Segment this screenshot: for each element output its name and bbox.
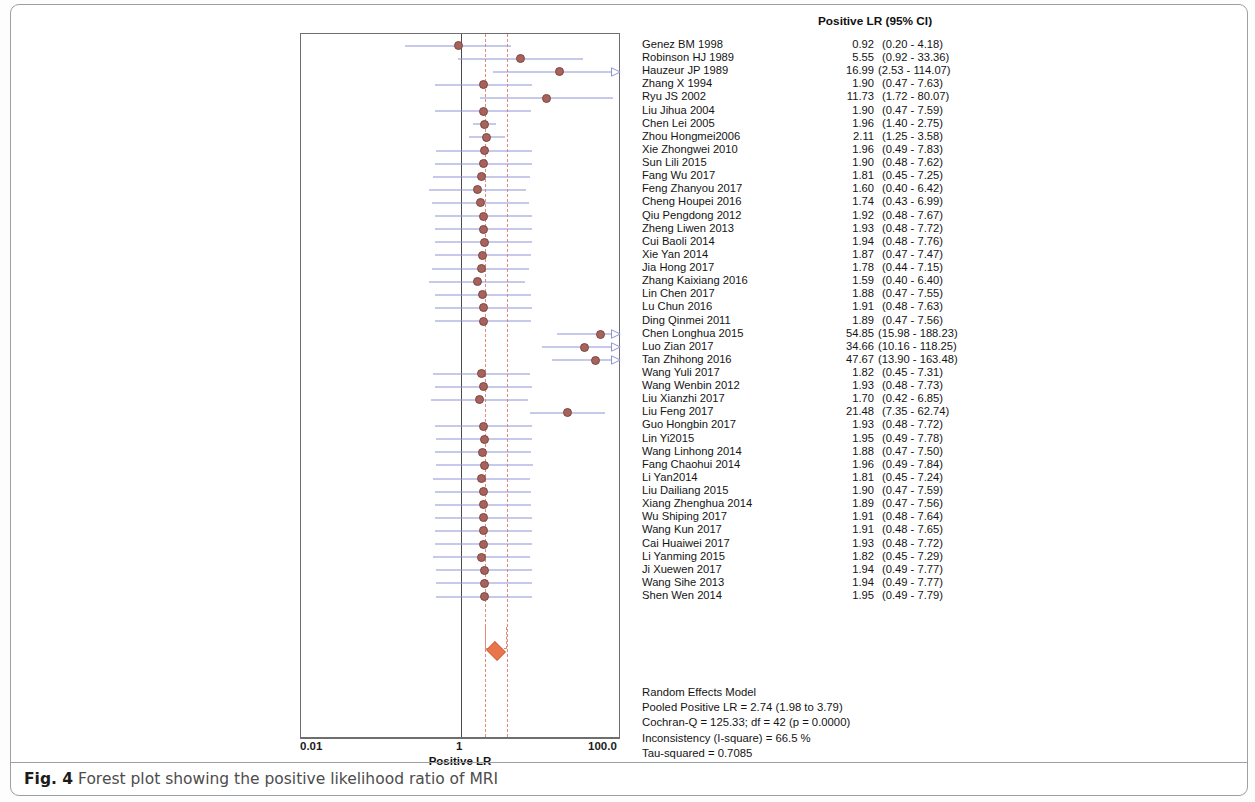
table-row: Cui Baoli 20141.94(0.48 - 7.76) — [642, 235, 1062, 248]
table-row: Wu Shiping 20171.91(0.48 - 7.64) — [642, 510, 1062, 523]
summary-inconsistency: Inconsistency (I-square) = 66.5 % — [642, 731, 850, 746]
study-estimate: 1.78 — [830, 261, 874, 273]
study-label: Wu Shiping 2017 — [642, 510, 727, 522]
study-confidence-interval: (0.49 - 7.77) — [882, 576, 943, 588]
point-estimate-marker — [477, 474, 486, 483]
point-estimate-marker — [580, 343, 589, 352]
study-confidence-interval: (0.48 - 7.67) — [882, 209, 943, 221]
summary-statistics: Random Effects Model Pooled Positive LR … — [642, 685, 850, 761]
forest-row — [301, 39, 619, 52]
study-estimate: 1.89 — [830, 314, 874, 326]
point-estimate-marker — [480, 566, 489, 575]
table-row: Wang Wenbin 20121.93(0.48 - 7.73) — [642, 379, 1062, 392]
study-estimate: 1.87 — [830, 248, 874, 260]
table-row: Ryu JS 200211.73(1.72 - 80.07) — [642, 90, 1062, 103]
table-row: Chen Longhua 201554.85(15.98 - 188.23) — [642, 327, 1062, 340]
table-row: Fang Wu 20171.81(0.45 - 7.25) — [642, 169, 1062, 182]
study-estimate: 1.92 — [830, 209, 874, 221]
study-confidence-interval: (0.45 - 7.29) — [882, 550, 943, 562]
study-confidence-interval: (15.98 - 188.23) — [878, 327, 958, 339]
point-estimate-marker — [596, 330, 605, 339]
table-row: Genez BM 19980.92(0.20 - 4.18) — [642, 38, 1062, 51]
summary-tau-squared: Tau-squared = 0.7085 — [642, 746, 850, 761]
study-label: Liu Dailiang 2015 — [642, 484, 728, 496]
point-estimate-marker — [480, 120, 489, 129]
point-estimate-marker — [479, 212, 488, 221]
study-label: Ji Xuewen 2017 — [642, 563, 722, 575]
column-header: Positive LR (95% CI) — [818, 14, 932, 28]
study-label: Lin Yi2015 — [642, 432, 694, 444]
study-confidence-interval: (7.35 - 62.74) — [882, 405, 949, 417]
forest-row — [301, 551, 619, 564]
study-label: Hauzeur JP 1989 — [642, 64, 728, 76]
study-label: Wang Wenbin 2012 — [642, 379, 740, 391]
study-estimate: 16.99 — [830, 64, 874, 76]
plot-box — [300, 33, 620, 738]
table-row: Guo Hongbin 20171.93(0.48 - 7.72) — [642, 418, 1062, 431]
forest-row — [301, 301, 619, 314]
forest-row — [301, 511, 619, 524]
study-label: Wang Sihe 2013 — [642, 576, 724, 588]
forest-row — [301, 354, 619, 367]
forest-row — [301, 485, 619, 498]
point-estimate-marker — [479, 500, 488, 509]
study-confidence-interval: (0.48 - 7.65) — [882, 523, 943, 535]
point-estimate-marker — [479, 382, 488, 391]
study-label: Li Yanming 2015 — [642, 550, 725, 562]
study-confidence-interval: (10.16 - 118.25) — [878, 340, 957, 352]
study-estimate: 1.82 — [830, 366, 874, 378]
study-label: Liu Jihua 2004 — [642, 104, 715, 116]
study-label: Tan Zhihong 2016 — [642, 353, 732, 365]
forest-row — [301, 183, 619, 196]
study-label: Luo Zian 2017 — [642, 340, 714, 352]
study-estimate: 1.90 — [830, 77, 874, 89]
study-confidence-interval: (0.48 - 7.72) — [882, 418, 943, 430]
study-estimate: 1.70 — [830, 392, 874, 404]
forest-row — [301, 367, 619, 380]
table-row: Zhang X 19941.90(0.47 - 7.63) — [642, 77, 1062, 90]
figure-caption: Fig. 4 Forest plot showing the positive … — [24, 770, 498, 788]
table-row: Li Yan20141.81(0.45 - 7.24) — [642, 471, 1062, 484]
forest-row — [301, 380, 619, 393]
table-row: Wang Kun 20171.91(0.48 - 7.65) — [642, 523, 1062, 536]
point-estimate-marker — [479, 526, 488, 535]
forest-row — [301, 275, 619, 288]
study-estimate: 1.81 — [830, 471, 874, 483]
forest-row — [301, 78, 619, 91]
point-estimate-marker — [479, 317, 488, 326]
study-confidence-interval: (0.49 - 7.78) — [882, 432, 943, 444]
table-row: Ding Qinmei 20111.89(0.47 - 7.56) — [642, 314, 1062, 327]
forest-row — [301, 236, 619, 249]
ci-overflow-arrow-icon — [611, 342, 621, 352]
point-estimate-marker — [476, 198, 485, 207]
point-estimate-marker — [478, 448, 487, 457]
table-row: Shen Wen 20141.95(0.49 - 7.79) — [642, 589, 1062, 602]
table-row: Liu Jihua 20041.90(0.47 - 7.59) — [642, 104, 1062, 117]
study-confidence-interval: (0.48 - 7.72) — [882, 222, 943, 234]
study-confidence-interval: (0.49 - 7.79) — [882, 589, 943, 601]
forest-row — [301, 105, 619, 118]
table-row: Zheng Liwen 20131.93(0.48 - 7.72) — [642, 222, 1062, 235]
study-estimate: 1.88 — [830, 445, 874, 457]
study-label: Chen Longhua 2015 — [642, 327, 743, 339]
study-confidence-interval: (0.47 - 7.50) — [882, 445, 943, 457]
study-label: Zheng Liwen 2013 — [642, 222, 734, 234]
forest-row — [301, 91, 619, 104]
point-estimate-marker — [480, 435, 489, 444]
study-estimate: 1.94 — [830, 576, 874, 588]
point-estimate-marker — [480, 579, 489, 588]
study-confidence-interval: (0.48 - 7.73) — [882, 379, 943, 391]
table-row: Xiang Zhenghua 20141.89(0.47 - 7.56) — [642, 497, 1062, 510]
study-estimate: 1.93 — [830, 418, 874, 430]
study-estimate: 1.95 — [830, 432, 874, 444]
figure-number: Fig. 4 — [24, 770, 73, 788]
forest-row — [301, 157, 619, 170]
study-estimate: 1.91 — [830, 510, 874, 522]
study-confidence-interval: (1.25 - 3.58) — [882, 130, 943, 142]
study-estimate: 1.96 — [830, 458, 874, 470]
point-estimate-marker — [480, 592, 489, 601]
point-estimate-marker — [516, 54, 525, 63]
study-label: Feng Zhanyou 2017 — [642, 182, 742, 194]
table-row: Wang Yuli 20171.82(0.45 - 7.31) — [642, 366, 1062, 379]
forest-row — [301, 315, 619, 328]
